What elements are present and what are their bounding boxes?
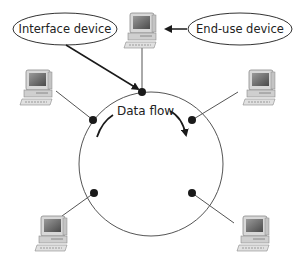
- interface-device-arrow: [66, 45, 138, 89]
- ring-node-lower-right: [188, 189, 196, 197]
- computer-icon-upper-left: [20, 70, 52, 105]
- spoke-upper-right: [192, 92, 238, 120]
- ring-network-diagram: Interface device End-use device Data flo…: [0, 0, 302, 268]
- end-use-device-label: End-use device: [196, 22, 284, 36]
- data-flow-arrow-left-arc: [97, 115, 113, 137]
- ring-node-top: [138, 88, 146, 96]
- interface-device-label: Interface device: [19, 22, 112, 36]
- computer-icon-top: [124, 13, 156, 48]
- ring-node-upper-right: [188, 116, 196, 124]
- spoke-lower-left: [62, 193, 94, 216]
- data-flow-label: Data flow: [117, 104, 174, 118]
- computer-icon-lower-right: [237, 216, 269, 251]
- computer-icon-lower-left: [35, 216, 67, 251]
- computer-icon-upper-right: [243, 70, 275, 105]
- ring-node-upper-left: [89, 116, 97, 124]
- ring-node-lower-left: [90, 189, 98, 197]
- spoke-upper-left: [56, 91, 93, 120]
